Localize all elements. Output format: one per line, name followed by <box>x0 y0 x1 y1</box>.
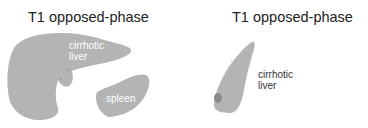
left-liver-label-line2: liver <box>69 51 104 62</box>
right-liver-label: cirrhotic liver <box>258 69 293 91</box>
left-liver-label: cirrhotic liver <box>69 40 104 62</box>
right-liver-label-line2: liver <box>258 80 293 91</box>
right-liver-label-line1: cirrhotic <box>258 69 293 80</box>
organ-diagram <box>0 0 368 128</box>
spleen-label: spleen <box>106 93 135 104</box>
lesion-shape <box>214 93 222 103</box>
left-liver-label-line1: cirrhotic <box>69 40 104 51</box>
